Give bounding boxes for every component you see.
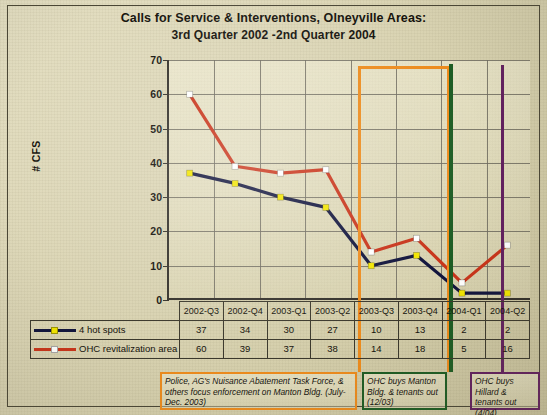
data-point-marker	[504, 242, 510, 248]
data-table: 2002-Q32002-Q42003-Q12003-Q22003-Q32003-…	[30, 301, 530, 359]
table-value-cell: 2	[486, 320, 530, 339]
series-line-1	[190, 173, 508, 293]
table-value-cell: 13	[398, 320, 442, 339]
data-point-marker	[414, 252, 420, 258]
table-value-cell: 39	[223, 339, 267, 358]
y-axis-tick-label: 50	[150, 123, 162, 135]
legend-label: 4 hot spots	[79, 324, 125, 335]
y-axis-tick-label: 30	[150, 191, 162, 203]
data-point-marker	[323, 204, 329, 210]
table-value-cell: 37	[180, 320, 224, 339]
table-value-cell: 37	[267, 339, 311, 358]
table-value-cell: 34	[223, 320, 267, 339]
table-header-cell: 2003-Q1	[267, 302, 311, 321]
data-point-marker	[232, 180, 238, 186]
table-header-cell: 2002-Q4	[223, 302, 267, 321]
series-line-2	[190, 94, 508, 283]
legend-item-2: OHC revitalization area	[31, 339, 180, 358]
data-point-marker	[232, 163, 238, 169]
page-title: Calls for Service & Interventions, Olney…	[0, 10, 547, 44]
table-value-cell: 18	[398, 339, 442, 358]
y-axis-title: # CFS	[30, 116, 42, 196]
title-line-1: Calls for Service & Interventions, Olney…	[0, 10, 547, 27]
note-manton: OHC buys Manton Bldg. & tenants out (12/…	[362, 372, 447, 410]
legend-swatch-icon	[34, 345, 76, 354]
y-axis-tick-label: 70	[150, 54, 162, 66]
table-corner-cell	[31, 302, 180, 321]
data-point-marker	[187, 91, 193, 97]
note-enforcement: Police, AG's Nuisance Abatement Task For…	[160, 372, 357, 410]
table-header-cell: 2003-Q4	[398, 302, 442, 321]
scanned-chart-page: Calls for Service & Interventions, Olney…	[0, 0, 547, 415]
table-header-cell: 2003-Q3	[355, 302, 399, 321]
table-header-cell: 2003-Q2	[311, 302, 355, 321]
table-row: OHC revitalization area603937381418516	[31, 339, 530, 358]
y-axis-tick-labels: 010203040506070	[118, 60, 162, 300]
data-point-marker	[504, 290, 510, 296]
table-value-cell: 5	[442, 339, 486, 358]
table-value-cell: 38	[311, 339, 355, 358]
data-point-marker	[459, 280, 465, 286]
data-point-marker	[459, 290, 465, 296]
table-value-cell: 30	[267, 320, 311, 339]
table-row: 4 hot spots37343027101322	[31, 320, 530, 339]
series-layer	[167, 60, 530, 300]
title-line-2: 3rd Quarter 2002 -2nd Quarter 2004	[0, 27, 547, 44]
table-header-row: 2002-Q32002-Q42003-Q12003-Q22003-Q32003-…	[31, 302, 530, 321]
data-point-marker	[414, 235, 420, 241]
y-axis-tick-label: 40	[150, 157, 162, 169]
table-value-cell: 27	[311, 320, 355, 339]
legend-label: OHC revitalization area	[79, 343, 177, 354]
legend-swatch-icon	[34, 326, 76, 335]
data-point-marker	[277, 170, 283, 176]
note-hillard: OHC buys Hillard & tenants out (4/04)	[470, 372, 540, 410]
y-axis-tick-label: 10	[150, 260, 162, 272]
data-point-marker	[277, 194, 283, 200]
table-header-cell: 2004-Q2	[486, 302, 530, 321]
table-value-cell: 16	[486, 339, 530, 358]
y-axis-tick-label: 20	[150, 225, 162, 237]
y-axis-tick-label: 60	[150, 88, 162, 100]
data-point-marker	[368, 263, 374, 269]
table-value-cell: 2	[442, 320, 486, 339]
table-header-cell: 2002-Q3	[180, 302, 224, 321]
legend-item-1: 4 hot spots	[31, 320, 180, 339]
table-value-cell: 60	[180, 339, 224, 358]
data-point-marker	[187, 170, 193, 176]
data-point-marker	[368, 249, 374, 255]
table-header-cell: 2004-Q1	[442, 302, 486, 321]
table-value-cell: 14	[355, 339, 399, 358]
data-point-marker	[323, 167, 329, 173]
table-value-cell: 10	[355, 320, 399, 339]
